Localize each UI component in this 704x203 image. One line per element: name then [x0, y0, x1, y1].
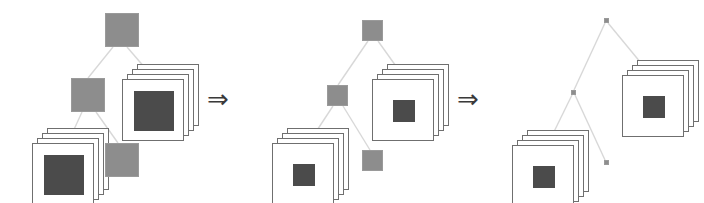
document-thumbnail [393, 100, 415, 122]
edge-root-to-internal [88, 47, 113, 78]
document-card-front [622, 75, 684, 137]
root-node [362, 20, 383, 41]
root-node [604, 18, 609, 23]
document-stack-right [122, 64, 199, 141]
internal-node [327, 85, 348, 106]
document-card-front [272, 143, 334, 203]
document-thumbnail [533, 166, 555, 188]
edge-root-to-internal [338, 41, 368, 85]
document-card-front [122, 79, 184, 141]
document-thumbnail [44, 155, 84, 195]
document-card-front [512, 145, 574, 203]
edge-root-to-internal [574, 23, 605, 90]
document-card-front [372, 79, 434, 141]
document-stack-right [372, 64, 449, 141]
document-stack-left [272, 128, 349, 203]
leaf-node-bottom [362, 150, 383, 171]
document-thumbnail [134, 91, 174, 131]
document-stack-left [32, 128, 109, 203]
internal-node [71, 78, 105, 112]
document-thumbnail [293, 164, 315, 186]
internal-node [571, 90, 576, 95]
transition-arrow-1: ⇒ [207, 86, 229, 112]
document-stack-left [512, 130, 589, 203]
document-card-front [32, 143, 94, 203]
leaf-node-bottom [105, 143, 139, 177]
transition-arrow-2: ⇒ [457, 86, 479, 112]
document-stack-right [622, 60, 699, 137]
leaf-node-bottom [604, 160, 609, 165]
tree-compression-figure: ⇒⇒ [0, 0, 704, 203]
document-thumbnail [643, 96, 665, 118]
root-node [105, 13, 139, 47]
